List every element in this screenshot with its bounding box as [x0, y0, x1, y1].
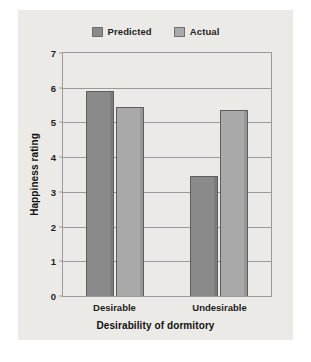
x-tick-label-undesirable: Undesirable: [167, 302, 272, 313]
y-axis-title-label: Happiness rating: [29, 133, 40, 216]
x-axis-tick-labels: DesirableUndesirable: [62, 302, 272, 313]
x-tick-label-desirable: Desirable: [62, 302, 167, 313]
chart-figure: Predicted Actual Happiness rating 012345…: [18, 10, 293, 340]
x-axis-title: Desirability of dormitory: [18, 320, 293, 331]
chart-legend: Predicted Actual: [18, 26, 293, 37]
bar-groups: [63, 53, 271, 296]
bar-group: [63, 53, 167, 296]
legend-entry-actual[interactable]: Actual: [174, 26, 220, 37]
legend-label-predicted: Predicted: [108, 26, 152, 37]
bar-actual-desirable[interactable]: [116, 107, 144, 296]
y-tick-label: 5: [51, 117, 56, 128]
bar-actual-undesirable[interactable]: [220, 110, 248, 296]
y-tick-label: 3: [51, 186, 56, 197]
legend-entry-predicted[interactable]: Predicted: [92, 26, 152, 37]
bar-predicted-desirable[interactable]: [86, 91, 114, 296]
bar-predicted-undesirable[interactable]: [190, 176, 218, 296]
y-tick-label: 4: [51, 152, 56, 163]
y-tick-label: 6: [51, 82, 56, 93]
plot-frame: 01234567: [62, 52, 272, 297]
actual-swatch-icon: [174, 27, 185, 37]
plot-area: 01234567: [62, 52, 272, 297]
y-axis-title: Happiness rating: [26, 52, 42, 297]
y-tick-label: 2: [51, 221, 56, 232]
predicted-swatch-icon: [92, 27, 103, 37]
legend-label-actual: Actual: [190, 26, 220, 37]
bar-group: [167, 53, 271, 296]
y-tick-label: 0: [51, 291, 56, 302]
y-tick-label: 7: [51, 48, 56, 59]
y-tick-label: 1: [51, 256, 56, 267]
